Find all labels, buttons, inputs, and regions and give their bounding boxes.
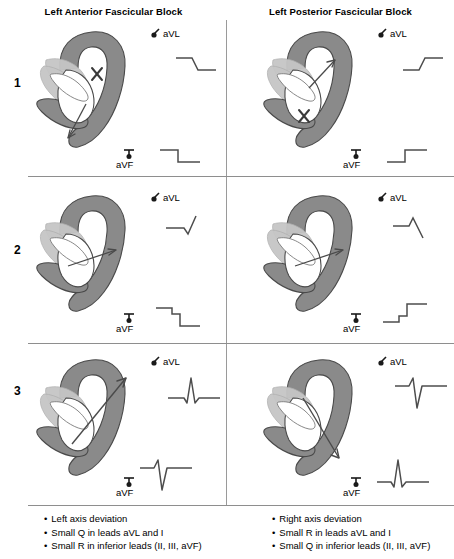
lead-label-avf: aVF xyxy=(116,312,135,334)
ecg-trace-avf xyxy=(140,454,200,496)
lead-label-avf: aVF xyxy=(343,476,362,498)
lead-label-avl: aVL xyxy=(150,356,180,367)
heart-diagram xyxy=(30,26,150,161)
summary-item: Small R in leads aVL and I xyxy=(272,526,430,540)
lead-label-avl: aVL xyxy=(150,192,180,203)
ecg-trace-avl xyxy=(393,212,443,242)
column-title-left-anterior: Left Anterior Fascicular Block xyxy=(0,6,227,17)
summary-item: Small R in inferior leads (II, III, aVF) xyxy=(44,539,202,553)
ecg-trace-avf xyxy=(387,144,431,168)
ecg-trace-avf xyxy=(156,300,204,330)
row-divider-2 xyxy=(28,343,454,344)
ecg-trace-avf xyxy=(160,144,204,168)
lead-label-avl: aVL xyxy=(377,356,407,367)
electrode-marker-icon xyxy=(150,356,161,367)
ecg-trace-avl xyxy=(395,372,451,412)
summary-item: Right axis deviation xyxy=(272,512,430,526)
heart-diagram xyxy=(30,354,150,489)
heart-diagram xyxy=(257,190,377,325)
row-number-1: 1 xyxy=(14,76,21,90)
column-title-left-posterior: Left Posterior Fascicular Block xyxy=(227,6,454,17)
row-divider-3 xyxy=(28,505,454,506)
vertical-divider xyxy=(226,20,227,505)
row-number-2: 2 xyxy=(14,243,21,257)
ecg-trace-avf xyxy=(377,454,435,496)
row-number-3: 3 xyxy=(14,384,21,398)
electrode-marker-icon xyxy=(150,28,161,39)
ecg-trace-avl xyxy=(403,50,447,76)
summary-item: Small Q in inferior leads (II, III, aVF) xyxy=(272,539,430,553)
lead-label-avl: aVL xyxy=(377,192,407,203)
lead-label-avl: aVL xyxy=(377,28,407,39)
summary-item: Small Q in leads aVL and I xyxy=(44,526,202,540)
heart-diagram xyxy=(257,26,377,161)
ecg-trace-avl xyxy=(166,212,216,242)
summary-list-left-anterior: Left axis deviation Small Q in leads aVL… xyxy=(44,512,202,553)
summary-item: Left axis deviation xyxy=(44,512,202,526)
electrode-marker-icon xyxy=(377,192,388,203)
row-divider-1 xyxy=(28,176,454,177)
ecg-trace-avl xyxy=(168,372,224,410)
fascicular-block-figure: Left Anterior Fascicular Block Left Post… xyxy=(0,0,454,559)
heart-diagram xyxy=(257,354,377,489)
lead-label-avf: aVF xyxy=(343,148,362,170)
lead-label-avl: aVL xyxy=(150,28,180,39)
lead-label-avf: aVF xyxy=(116,148,135,170)
electrode-marker-icon xyxy=(150,192,161,203)
electrode-marker-icon xyxy=(377,28,388,39)
lead-label-avf: aVF xyxy=(343,312,362,334)
heart-diagram xyxy=(30,190,150,325)
electrode-marker-icon xyxy=(377,356,388,367)
summary-list-left-posterior: Right axis deviation Small R in leads aV… xyxy=(272,512,430,553)
ecg-trace-avf xyxy=(383,300,431,330)
lead-label-avf: aVF xyxy=(116,476,135,498)
ecg-trace-avl xyxy=(176,50,220,76)
